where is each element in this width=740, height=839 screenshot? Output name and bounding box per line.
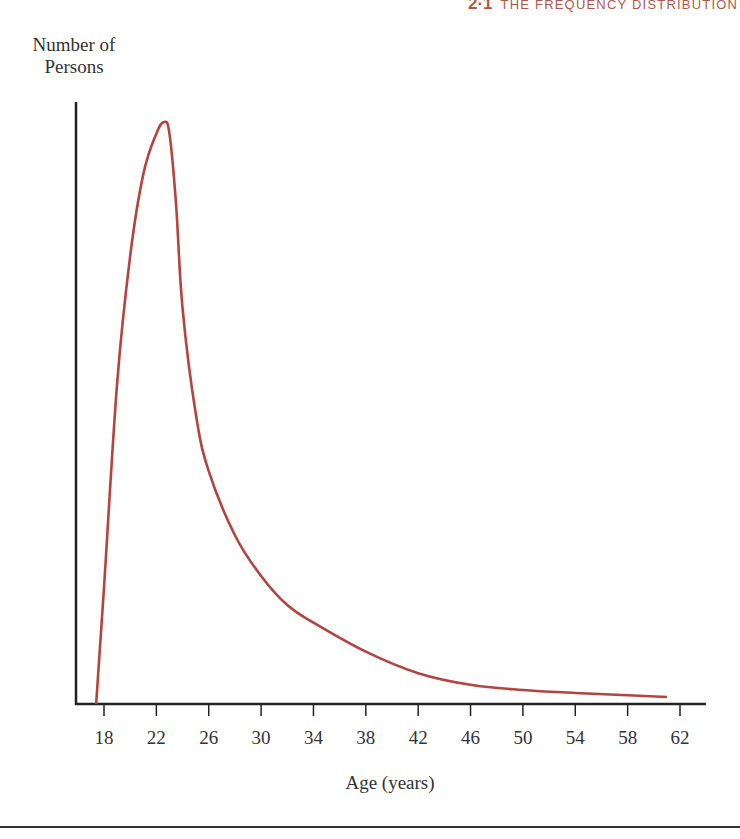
x-tick-label: 30 (252, 727, 271, 748)
chart-plot-area: 182226303438424650545862 (0, 0, 740, 839)
x-tick-label: 34 (304, 727, 324, 748)
x-tick-label: 38 (356, 727, 375, 748)
x-axis-ticks (104, 704, 680, 716)
x-tick-label: 18 (95, 727, 114, 748)
x-tick-label: 26 (199, 727, 218, 748)
x-axis-tick-labels: 182226303438424650545862 (95, 727, 690, 748)
x-tick-label: 22 (147, 727, 166, 748)
x-axis-label: Age (years) (0, 772, 740, 794)
frequency-curve (96, 122, 667, 704)
axes (75, 102, 706, 705)
page-rule (0, 826, 740, 828)
x-tick-label: 50 (513, 727, 532, 748)
x-tick-label: 42 (409, 727, 428, 748)
x-tick-label: 46 (461, 727, 480, 748)
x-tick-label: 58 (618, 727, 637, 748)
x-tick-label: 62 (671, 727, 690, 748)
x-tick-label: 54 (566, 727, 586, 748)
